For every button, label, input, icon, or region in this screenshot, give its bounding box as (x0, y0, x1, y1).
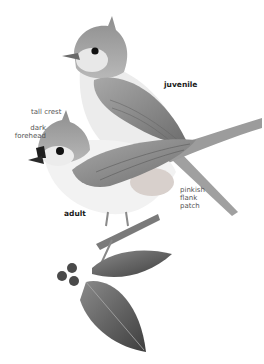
holly-leaf-bottom (80, 281, 146, 352)
holly-branch (57, 214, 172, 352)
label-adult: adult (64, 210, 86, 218)
berry (57, 271, 67, 281)
juvenile-eye (91, 47, 98, 54)
juvenile-beak (62, 53, 80, 60)
label-tall-crest: tall crest (31, 108, 61, 116)
titmouse-illustration (0, 0, 264, 364)
berry (67, 263, 77, 273)
label-dark-forehead: dark forehead (6, 124, 46, 140)
berry (69, 276, 79, 286)
label-pinkish-flank-patch: pinkish flank patch (180, 186, 205, 210)
holly-leaf-top (92, 250, 172, 277)
illustration-canvas: juvenile tall crest dark forehead adult … (0, 0, 264, 364)
adult-eye (56, 147, 64, 155)
label-juvenile: juvenile (164, 81, 197, 89)
adult-beak (28, 156, 44, 164)
